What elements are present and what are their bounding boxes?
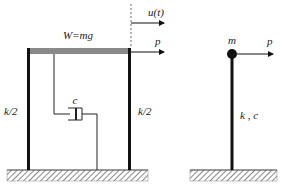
frame-model: c W=mg k/2 k/2 u(t) p: [4, 4, 164, 181]
sdof-model: m p k , c: [190, 34, 277, 181]
force-label-frame: p: [154, 35, 161, 47]
damper-label: c: [73, 94, 78, 106]
ground-left: [7, 170, 148, 181]
lumped-mass: [227, 49, 237, 59]
ground-right: [190, 170, 277, 181]
displacement-label: u(t): [148, 6, 164, 19]
force-label-sdof: p: [266, 35, 273, 47]
structural-diagram: c W=mg k/2 k/2 u(t) p m p k , c: [0, 0, 281, 188]
stiffness-damping-label: k , c: [240, 109, 258, 121]
rigid-beam: [27, 48, 131, 54]
right-column-stiffness-label: k/2: [138, 105, 152, 117]
weight-label: W=mg: [63, 29, 94, 41]
left-column-stiffness-label: k/2: [4, 105, 18, 117]
damper-link-bottom: [82, 114, 97, 170]
mass-label: m: [228, 34, 236, 46]
damper-link-top: [54, 54, 70, 114]
